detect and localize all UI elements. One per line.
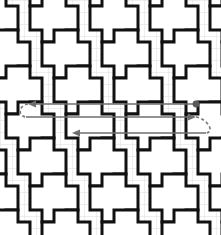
tessellation-canvas: [0, 0, 221, 235]
path-start-dot: [193, 101, 200, 108]
tessellation-figure: [0, 0, 221, 235]
